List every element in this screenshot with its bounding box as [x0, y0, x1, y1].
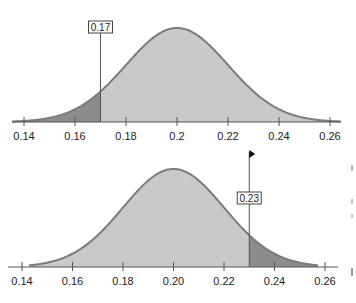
x-tick-label: 0.22: [213, 275, 234, 287]
edge-artifacts: [351, 165, 353, 276]
bottom-normal-curve-chart: 0.140.160.180.200.220.240.260.23: [8, 150, 338, 287]
x-tick-label: 0.24: [264, 275, 285, 287]
x-tick-label: 0.14: [11, 275, 32, 287]
x-tick-label: 0.26: [314, 275, 335, 287]
x-tick-label: 0.2: [169, 130, 184, 142]
x-tick-label: 0.26: [319, 130, 340, 142]
x-tick-label: 0.16: [64, 130, 85, 142]
x-tick-label: 0.14: [13, 130, 34, 142]
x-tick-label: 0.20: [163, 275, 184, 287]
shaded-right-tail: [249, 235, 318, 267]
x-tick-label: 0.18: [115, 130, 136, 142]
top-normal-curve-chart: 0.140.160.180.20.220.240.260.17: [12, 21, 341, 142]
x-tick-label: 0.16: [62, 275, 83, 287]
curve-area: [12, 28, 341, 122]
flag-icon[interactable]: [249, 150, 255, 158]
marker-value-label: 0.17: [91, 22, 111, 33]
x-tick-label: 0.22: [217, 130, 238, 142]
marker-value-label: 0.23: [240, 193, 260, 204]
shaded-left-tail: [12, 91, 101, 122]
x-tick-label: 0.18: [112, 275, 133, 287]
curve-area: [29, 169, 318, 267]
x-tick-label: 0.24: [268, 130, 289, 142]
normal-distribution-charts: 0.140.160.180.20.220.240.260.17 0.140.16…: [0, 0, 356, 303]
